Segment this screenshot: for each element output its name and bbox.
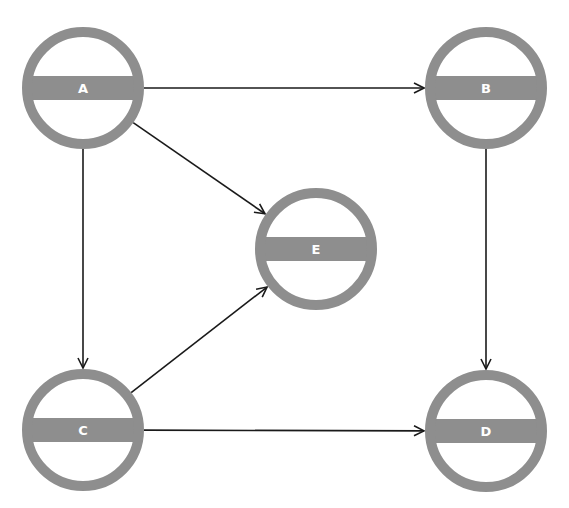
edge-a-to-e[interactable]: [133, 123, 265, 214]
node-d[interactable]: D: [430, 375, 542, 487]
edge-c-to-e[interactable]: [131, 287, 267, 393]
node-a[interactable]: A: [27, 32, 139, 144]
node-b[interactable]: B: [430, 32, 542, 144]
node-e[interactable]: E: [260, 193, 372, 305]
node-label: A: [78, 81, 88, 96]
graph-canvas: ABECD: [0, 0, 569, 508]
node-label: C: [78, 423, 88, 438]
edge-c-to-d[interactable]: [144, 430, 424, 431]
node-label: D: [481, 424, 492, 439]
nodes-layer: ABECD: [27, 32, 542, 487]
node-label: E: [312, 242, 321, 257]
node-c[interactable]: C: [27, 374, 139, 486]
node-label: B: [481, 81, 491, 96]
